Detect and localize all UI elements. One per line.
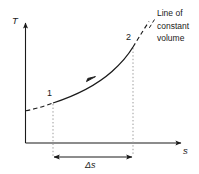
annotation-line-1: Line of <box>157 7 189 20</box>
x-axis-label: s <box>183 146 188 156</box>
curve-extension-left <box>26 103 53 111</box>
curve-extension-right <box>133 22 149 48</box>
annotation-line-2: constant <box>157 20 189 33</box>
process-direction-arrow-icon <box>87 77 96 82</box>
delta-s-label: Δs <box>85 161 96 170</box>
y-axis-label: T <box>12 16 18 26</box>
constant-volume-curve <box>53 47 133 103</box>
state-point-2-label: 2 <box>126 33 131 42</box>
ts-diagram-figure: T s 1 2 Δs Line of constant volume <box>0 0 199 174</box>
constant-volume-annotation: Line of constant volume <box>157 7 189 45</box>
annotation-leader-line <box>148 20 155 31</box>
annotation-line-3: volume <box>157 32 189 45</box>
state-point-1-label: 1 <box>47 89 52 98</box>
